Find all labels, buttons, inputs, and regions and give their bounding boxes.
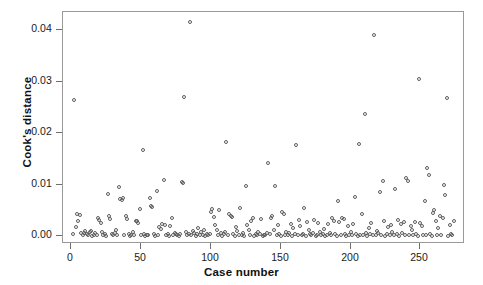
data-point	[155, 189, 159, 193]
data-point	[297, 218, 301, 222]
data-point	[423, 199, 427, 203]
data-point	[76, 219, 80, 223]
data-point	[307, 228, 311, 232]
data-point	[413, 220, 417, 224]
data-point	[410, 228, 414, 232]
y-tick-label: 0.01	[0, 177, 52, 189]
data-point	[125, 217, 129, 221]
data-point	[342, 217, 346, 221]
data-point	[291, 226, 295, 230]
data-point	[432, 208, 436, 212]
x-tick-mark	[140, 243, 141, 249]
data-point	[196, 226, 200, 230]
data-point	[121, 196, 125, 200]
data-point	[406, 179, 410, 183]
data-point	[442, 183, 446, 187]
data-point	[335, 234, 339, 238]
data-point	[202, 228, 206, 232]
data-point	[104, 234, 108, 238]
data-point	[259, 217, 263, 221]
data-point	[181, 181, 185, 185]
data-point	[389, 223, 393, 227]
y-tick-label: 0.02	[0, 125, 52, 137]
data-point	[372, 33, 376, 37]
data-point	[132, 233, 136, 237]
data-point	[452, 219, 456, 223]
data-point	[296, 233, 300, 237]
data-point	[162, 178, 166, 182]
data-point	[445, 96, 449, 100]
data-point	[282, 212, 286, 216]
data-point	[294, 143, 298, 147]
data-point	[159, 227, 163, 231]
data-point	[141, 148, 145, 152]
data-point	[117, 185, 121, 189]
data-point	[71, 232, 75, 236]
data-point	[108, 217, 112, 221]
y-tick-label: 0.04	[0, 22, 52, 34]
data-point	[136, 221, 140, 225]
x-tick-mark	[210, 243, 211, 249]
data-point	[416, 234, 420, 238]
y-tick-label: 0.03	[0, 74, 52, 86]
y-tick-mark	[56, 29, 62, 30]
x-tick-label: 150	[260, 251, 300, 263]
data-point	[273, 184, 277, 188]
data-point	[188, 20, 192, 24]
data-point	[251, 216, 255, 220]
data-point	[427, 173, 431, 177]
data-point	[322, 227, 326, 231]
y-tick-mark	[56, 81, 62, 82]
data-point	[439, 233, 443, 237]
data-point	[245, 223, 249, 227]
data-point	[298, 224, 302, 228]
x-tick-mark	[350, 243, 351, 249]
data-point	[213, 223, 217, 227]
data-point	[357, 142, 361, 146]
data-point	[266, 161, 270, 165]
data-point	[208, 232, 212, 236]
data-point	[360, 212, 364, 216]
data-point	[425, 166, 429, 170]
data-point	[106, 192, 110, 196]
data-point	[305, 220, 309, 224]
data-point	[443, 193, 447, 197]
x-tick-mark	[280, 243, 281, 249]
cooks-distance-plot: Case number Cook's distance 0.000.010.02…	[0, 0, 483, 285]
data-point	[163, 223, 167, 227]
x-axis-title: Case number	[0, 266, 483, 278]
data-point	[382, 219, 386, 223]
data-point	[346, 224, 350, 228]
x-tick-label: 50	[120, 251, 160, 263]
data-point	[393, 187, 397, 191]
data-point	[212, 215, 216, 219]
data-point	[242, 234, 246, 238]
data-point	[247, 228, 251, 232]
data-point	[226, 233, 230, 237]
data-point	[378, 190, 382, 194]
data-point	[244, 184, 248, 188]
data-point	[436, 226, 440, 230]
y-tick-mark	[56, 235, 62, 236]
x-tick-label: 100	[190, 251, 230, 263]
data-point	[95, 233, 99, 237]
data-point	[168, 224, 172, 228]
data-point	[122, 233, 126, 237]
data-point	[276, 223, 280, 227]
data-point	[448, 223, 452, 227]
data-point	[138, 207, 142, 211]
data-point	[353, 195, 357, 199]
plot-area	[62, 11, 464, 243]
data-point	[336, 199, 340, 203]
data-point	[182, 95, 186, 99]
data-point	[215, 228, 219, 232]
data-point	[369, 221, 373, 225]
data-point	[78, 213, 82, 217]
x-tick-mark	[419, 243, 420, 249]
data-point	[417, 77, 421, 81]
data-point	[235, 229, 239, 233]
data-point	[99, 221, 103, 225]
data-point	[434, 219, 438, 223]
data-point	[302, 206, 306, 210]
data-point	[230, 215, 234, 219]
